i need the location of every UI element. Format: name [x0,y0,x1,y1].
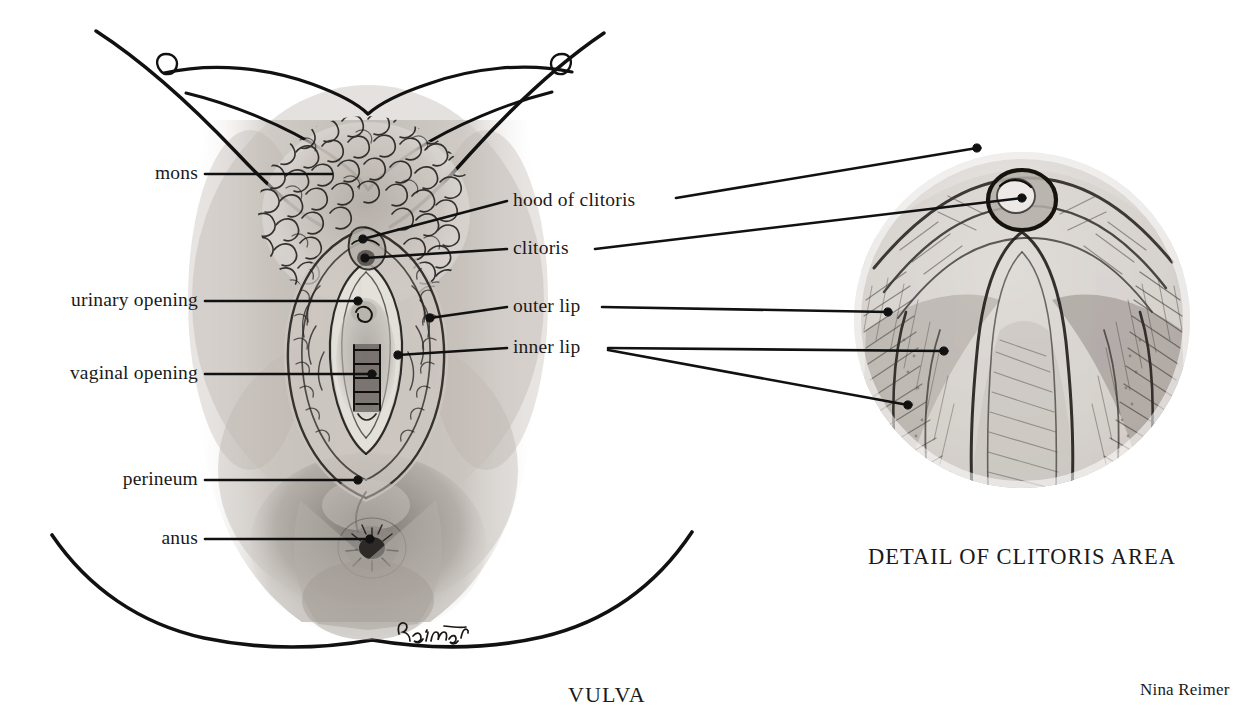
main-figure [52,31,692,647]
label-outer-lip: outer lip [513,295,580,317]
leader-dot-hood-of-clitoris-main [359,235,367,243]
leader-dot-perineum [354,476,362,484]
caption-vulva: VULVA [568,682,646,708]
leader-dot-clitoris-main [361,254,369,262]
leader-outer-lip-detail [602,307,892,316]
label-urinary-opening: urinary opening [0,289,198,311]
leader-dot-hood-of-clitoris-detail [973,144,981,152]
label-perineum: perineum [0,468,198,490]
leader-dot-vaginal-opening [368,370,376,378]
leader-dot-inner-lip-detail-b [904,401,912,409]
leader-dot-outer-lip-detail [884,308,892,316]
leader-dot-inner-lip-detail-a [940,347,948,355]
label-clitoris: clitoris [513,237,569,259]
leader-dot-anus [366,535,374,543]
detail-circle-illustration [854,152,1190,500]
leader-dot-outer-lip-main [426,314,434,322]
label-hood-of-clitoris: hood of clitoris [513,189,635,211]
leader-dot-inner-lip-main [394,351,402,359]
label-mons: mons [0,162,198,184]
label-vaginal-opening: vaginal opening [0,362,198,384]
label-inner-lip: inner lip [513,336,580,358]
caption-detail-of-clitoris-area: DETAIL OF CLITORIS AREA [868,544,1176,570]
artist-credit: Nina Reimer [1140,680,1230,700]
diagram-page: monsurinary openingvaginal openingperine… [0,0,1248,728]
label-anus: anus [0,527,198,549]
vaginal-opening-mark [353,344,381,420]
leader-dot-urinary-opening [354,297,362,305]
leader-dot-clitoris-detail [1018,194,1026,202]
